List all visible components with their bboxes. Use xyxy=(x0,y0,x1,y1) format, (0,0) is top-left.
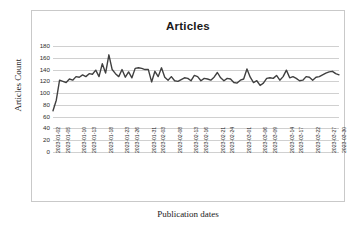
x-tick-label-2023-03-27: 2023-03-27 xyxy=(331,107,337,153)
x-tick-label-2023-01-23: 2023-01-23 xyxy=(124,107,130,153)
x-tick-label-2023-03-22: 2023-03-22 xyxy=(315,107,321,153)
x-tick-label-2023-03-17: 2023-03-17 xyxy=(298,107,304,153)
x-tick-label-2023-01-26: 2023-01-26 xyxy=(134,107,140,153)
x-tick-label-2023-02-03: 2023-02-03 xyxy=(160,107,166,153)
x-tick-label-2023-03-14: 2023-03-14 xyxy=(289,107,295,153)
x-tick-label-2023-03-30: 2023-03-30 xyxy=(341,107,347,153)
articles-line-chart: Articles 180160140120100806040200 2023-0… xyxy=(0,0,355,231)
x-axis-tick-labels: 2023-01-022023-01-052023-01-102023-01-13… xyxy=(53,153,339,201)
x-tick-label-2023-02-21: 2023-02-21 xyxy=(220,107,226,153)
y-tick-label-140: 140 xyxy=(30,67,50,73)
y-tick-label-40: 40 xyxy=(30,125,50,131)
series-articles-count-line xyxy=(53,55,339,111)
y-tick-label-120: 120 xyxy=(30,78,50,84)
y-axis-tick-labels: 180160140120100806040200 xyxy=(28,46,50,152)
x-tick-label-2023-03-06: 2023-03-06 xyxy=(262,107,268,153)
y-tick-label-60: 60 xyxy=(30,114,50,120)
x-tick-label-2023-02-13: 2023-02-13 xyxy=(193,107,199,153)
y-tick-label-180: 180 xyxy=(30,43,50,49)
x-tick-label-2023-01-02: 2023-01-02 xyxy=(55,107,61,153)
y-tick-label-100: 100 xyxy=(30,90,50,96)
x-tick-label-2023-03-09: 2023-03-09 xyxy=(272,107,278,153)
y-tick-label-20: 20 xyxy=(30,137,50,143)
x-tick-label-2023-02-08: 2023-02-08 xyxy=(177,107,183,153)
chart-title: Articles xyxy=(31,20,345,32)
x-axis-title: Publication dates xyxy=(31,209,345,219)
y-tick-label-80: 80 xyxy=(30,102,50,108)
x-tick-label-2023-01-18: 2023-01-18 xyxy=(108,107,114,153)
x-tick-label-2023-01-05: 2023-01-05 xyxy=(65,107,71,153)
x-tick-label-2023-01-31: 2023-01-31 xyxy=(151,107,157,153)
x-tick-label-2023-01-10: 2023-01-10 xyxy=(81,107,87,153)
y-tick-label-160: 160 xyxy=(30,55,50,61)
y-tick-label-0: 0 xyxy=(30,149,50,155)
x-tick-label-2023-02-24: 2023-02-24 xyxy=(229,107,235,153)
x-tick-label-2023-02-16: 2023-02-16 xyxy=(203,107,209,153)
x-tick-label-2023-01-13: 2023-01-13 xyxy=(91,107,97,153)
y-axis-title: Articles Count xyxy=(13,45,23,125)
x-tick-label-2023-03-01: 2023-03-01 xyxy=(246,107,252,153)
